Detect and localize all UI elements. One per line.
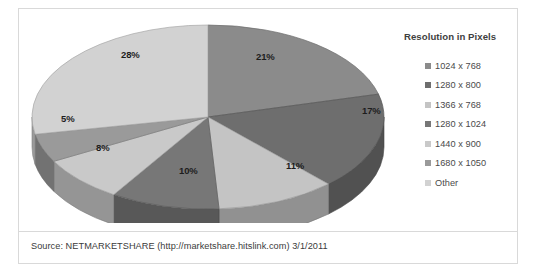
legend-swatch-icon [425,121,431,127]
legend-swatch-icon [425,82,431,88]
slice-percentage-label: 21% [256,51,275,62]
legend-item-label: 1366 x 768 [435,100,481,110]
pie-chart: 21%17%11%10%8%5%28% [19,9,397,223]
footer-divider [19,231,517,232]
slice-percentage-label: 17% [362,105,381,116]
slice-percentage-label: 10% [179,165,198,176]
legend-item: 1366 x 768 [425,95,515,115]
legend-item: 1680 x 1050 [425,154,515,174]
legend-item-label: 1280 x 800 [435,80,481,90]
legend-swatch-icon [425,180,431,186]
chart-frame: 21%17%11%10%8%5%28% Resolution in Pixels… [18,8,518,264]
pie-3d-stage: 21%17%11%10%8%5%28% [24,13,392,223]
legend-item: 1280 x 1024 [425,115,515,135]
legend-item-label: 1440 x 900 [435,139,481,149]
legend-item-label: Other [435,178,458,188]
source-note: Source: NETMARKETSHARE (http://marketsha… [31,241,328,251]
legend-swatch-icon [425,141,431,147]
slice-percentage-label: 11% [286,160,304,171]
legend-swatch-icon [425,102,431,108]
legend-title: Resolution in Pixels [404,31,515,42]
slice-percentage-label: 8% [96,142,110,153]
slice-percentage-label: 28% [121,49,140,60]
legend-item-label: 1024 x 768 [435,61,481,71]
legend: Resolution in Pixels 1024 x 7681280 x 80… [403,31,515,193]
pie-slice [32,25,208,134]
slice-percentage-label: 5% [61,113,75,124]
legend-item-label: 1280 x 1024 [435,119,486,129]
legend-swatch-icon [425,63,431,69]
legend-items: 1024 x 7681280 x 8001366 x 7681280 x 102… [403,56,515,193]
legend-item: 1280 x 800 [425,76,515,96]
legend-item: Other [425,173,515,193]
legend-item: 1024 x 768 [425,56,515,76]
legend-item: 1440 x 900 [425,134,515,154]
pie-svg [24,13,392,223]
legend-swatch-icon [425,160,431,166]
legend-item-label: 1680 x 1050 [435,158,486,168]
